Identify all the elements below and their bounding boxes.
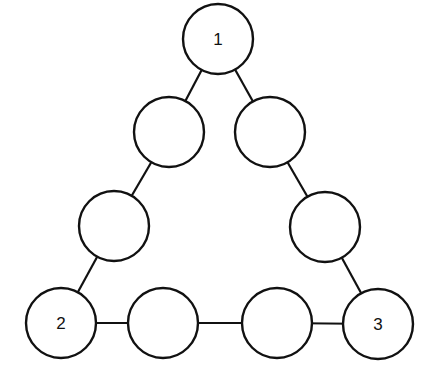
circle-bottom-side-left: [128, 288, 198, 358]
circle-right-side-lower: [290, 192, 360, 262]
node-r2: [290, 192, 360, 262]
node-b1: [128, 288, 198, 358]
node-label: 2: [56, 314, 65, 333]
node-l2: [79, 191, 149, 261]
node-b2: [242, 288, 312, 358]
node-n3: 3: [343, 289, 413, 359]
node-n1: 1: [183, 4, 253, 74]
edges-group: [61, 39, 378, 324]
circle-right-side-upper: [235, 97, 305, 167]
node-r1: [235, 97, 305, 167]
circle-left-side-upper: [134, 97, 204, 167]
node-label: 3: [373, 315, 382, 334]
nodes-group: 123: [26, 4, 413, 359]
circle-left-side-lower: [79, 191, 149, 261]
triangle-circle-diagram: 123: [0, 0, 434, 376]
node-l1: [134, 97, 204, 167]
circle-bottom-side-right: [242, 288, 312, 358]
node-label: 1: [213, 30, 222, 49]
node-n2: 2: [26, 288, 96, 358]
